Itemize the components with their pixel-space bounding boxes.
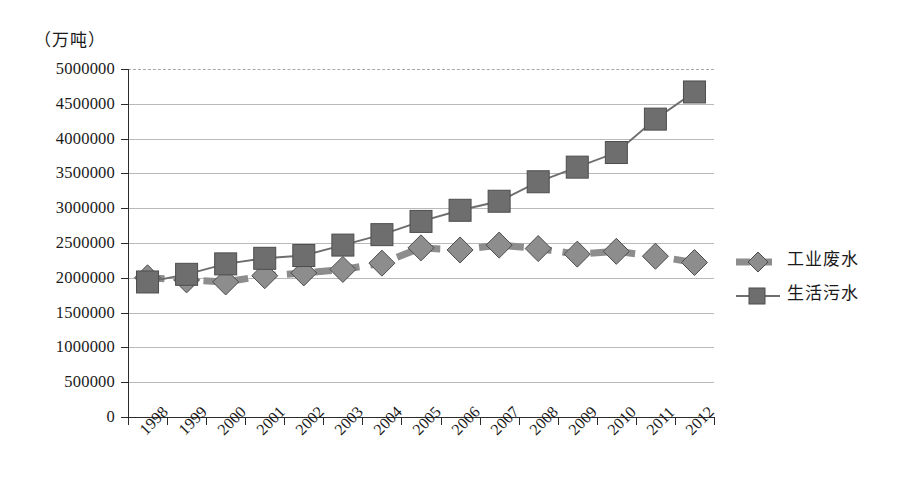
square-marker <box>527 171 549 193</box>
square-marker <box>449 199 471 221</box>
square-marker <box>332 234 354 256</box>
square-marker <box>293 245 315 267</box>
y-axis-unit-caption: （万吨） <box>34 26 106 51</box>
diamond-marker <box>736 250 780 270</box>
chart-container: （万吨） 50000004500000400000035000003000000… <box>0 0 913 504</box>
diamond-marker <box>642 243 668 269</box>
chart-legend: 工业废水生活污水 <box>736 243 859 311</box>
square-marker <box>605 142 627 164</box>
square-marker <box>215 253 237 275</box>
y-axis-label: 4000000 <box>56 129 115 149</box>
legend-label: 生活污水 <box>787 277 859 311</box>
square-marker <box>644 108 666 130</box>
legend-item-domestic-sewage[interactable]: 生活污水 <box>736 277 859 311</box>
legend-label: 工业废水 <box>787 243 859 277</box>
diamond-marker <box>447 237 473 263</box>
diamond-marker <box>525 236 551 262</box>
legend-item-industrial-wastewater[interactable]: 工业废水 <box>736 243 859 277</box>
square-marker <box>254 247 276 269</box>
y-axis-label: 3500000 <box>56 163 115 183</box>
y-axis-label: 500000 <box>64 372 115 392</box>
y-axis-label: 3000000 <box>56 198 115 218</box>
square-marker <box>371 224 393 246</box>
square-marker <box>410 210 432 232</box>
y-axis-label: 1000000 <box>56 337 115 357</box>
diamond-marker <box>564 241 590 267</box>
square-marker <box>176 263 198 285</box>
y-axis-label: 0 <box>107 407 115 427</box>
diamond-marker <box>681 249 707 275</box>
diamond-marker <box>603 238 629 264</box>
x-axis-tick <box>128 417 129 425</box>
square-marker <box>566 156 588 178</box>
square-marker <box>488 190 510 212</box>
square-marker <box>736 284 780 304</box>
y-axis-label: 2500000 <box>56 233 115 253</box>
y-axis-label: 2000000 <box>56 268 115 288</box>
square-marker <box>137 271 159 293</box>
diamond-marker <box>369 250 395 276</box>
square-marker <box>683 81 705 103</box>
y-axis-label: 4500000 <box>56 94 115 114</box>
series-layer <box>128 69 714 417</box>
diamond-marker <box>408 235 434 261</box>
diamond-marker <box>486 232 512 258</box>
y-axis-label: 1500000 <box>56 303 115 323</box>
diamond-marker <box>330 256 356 282</box>
y-axis-label: 5000000 <box>56 59 115 79</box>
